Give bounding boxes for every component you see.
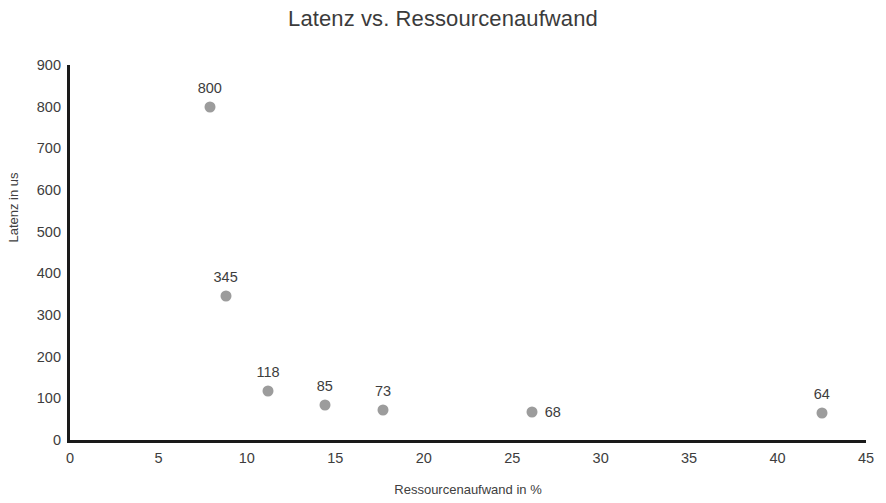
y-tick-label: 600 (37, 182, 61, 198)
x-tick-label: 35 (681, 450, 697, 466)
x-tick-label: 0 (66, 450, 74, 466)
x-tick-label: 40 (769, 450, 785, 466)
data-point-label: 64 (814, 386, 830, 402)
y-tick-label: 100 (37, 390, 61, 406)
y-tick-label: 400 (37, 265, 61, 281)
y-tick-label: 800 (37, 99, 61, 115)
y-axis-title: Latenz in us (6, 148, 21, 268)
data-point-label: 800 (198, 80, 222, 96)
y-tick-label: 200 (37, 349, 61, 365)
y-tick-label: 300 (37, 307, 61, 323)
data-point[interactable] (319, 399, 330, 410)
data-point-label: 118 (257, 364, 280, 380)
x-tick-label: 10 (239, 450, 255, 466)
plot-area: 0100200300400500600700800900 05101520253… (70, 65, 866, 440)
data-point-label: 73 (375, 383, 391, 399)
data-point[interactable] (263, 385, 274, 396)
data-point[interactable] (816, 408, 827, 419)
x-tick-label: 45 (858, 450, 874, 466)
data-point-label: 85 (317, 378, 333, 394)
data-point-label: 345 (214, 269, 238, 285)
y-axis-line (67, 65, 70, 443)
chart-title: Latenz vs. Ressourcenaufwand (0, 6, 886, 32)
data-point[interactable] (204, 101, 215, 112)
x-tick-label: 5 (154, 450, 162, 466)
y-tick-label: 700 (37, 140, 61, 156)
y-tick-label: 500 (37, 224, 61, 240)
data-point[interactable] (526, 406, 537, 417)
x-tick-label: 15 (327, 450, 343, 466)
y-tick-label: 0 (53, 432, 61, 448)
data-point-label: 68 (545, 404, 561, 420)
x-tick-label: 20 (416, 450, 432, 466)
y-tick-label: 900 (37, 57, 61, 73)
x-axis-line (67, 440, 866, 443)
x-axis-title: Ressourcenaufwand in % (70, 482, 866, 497)
x-tick-label: 30 (593, 450, 609, 466)
scatter-chart: Latenz vs. Ressourcenaufwand Latenz in u… (0, 0, 886, 503)
x-tick-label: 25 (504, 450, 520, 466)
data-point[interactable] (220, 291, 231, 302)
data-point[interactable] (378, 404, 389, 415)
